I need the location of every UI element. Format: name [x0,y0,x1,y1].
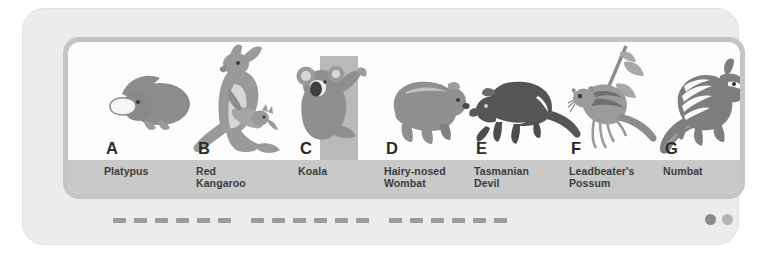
species-letter-f: F [571,140,581,157]
species-label-leadbeaters-possum: Leadbeater's Possum [569,165,635,189]
species-letter-b: B [198,140,210,157]
page-dot-active[interactable] [705,214,716,225]
species-letter-c: C [300,140,312,157]
species-letter-d: D [386,140,398,157]
page-dot-inactive[interactable] [722,214,733,225]
caption-dash [452,218,465,223]
caption-dash [218,218,231,223]
platypus-illustration [110,76,190,130]
caption-dash [431,218,444,223]
caption-dash [494,218,507,223]
illustration-panel: A B C D E F G Platypus Red Kangaroo Koal… [68,42,740,194]
caption-placeholder-strip [63,205,745,239]
species-label-koala: Koala [298,165,327,177]
figure-card: A B C D E F G Platypus Red Kangaroo Koal… [22,8,739,245]
page-indicator-dots[interactable] [705,214,733,225]
caption-dash [314,218,327,223]
species-label-platypus: Platypus [104,165,149,177]
caption-dash [272,218,285,223]
caption-dash-group-1 [113,218,231,223]
caption-dash [293,218,306,223]
caption-dash [155,218,168,223]
caption-dash [251,218,264,223]
species-letter-a: A [106,140,118,157]
leadbeaters-possum-illustration [568,46,657,148]
species-label-tasmanian-devil: Tasmanian Devil [474,165,529,189]
caption-dash [473,218,486,223]
caption-dash [134,218,147,223]
tasmanian-devil-illustration [469,82,580,144]
species-label-numbat: Numbat [663,165,703,177]
illustration-panel-frame: A B C D E F G Platypus Red Kangaroo Koal… [63,37,745,199]
hairy-nosed-wombat-illustration [394,82,470,144]
caption-dash [335,218,348,223]
species-letter-e: E [476,140,487,157]
caption-dash [113,218,126,223]
species-letter-g: G [665,140,678,157]
caption-dash [176,218,189,223]
caption-dash-group-2 [251,218,369,223]
species-label-red-kangaroo: Red Kangaroo [196,165,246,189]
species-label-band: Platypus Red Kangaroo Koala Hairy-nosed … [68,160,740,194]
caption-dash [197,218,210,223]
caption-dash [389,218,402,223]
species-label-hairy-nosed-wombat: Hairy-nosed Wombat [384,165,446,189]
caption-dash-group-3 [389,218,507,223]
caption-dash [356,218,369,223]
red-kangaroo-illustration [193,44,280,153]
caption-dash [410,218,423,223]
